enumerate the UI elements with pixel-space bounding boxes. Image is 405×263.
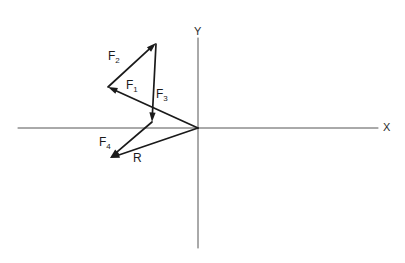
vector-label-subscript-F3: 3 (163, 94, 167, 103)
vector-diagram-svg (0, 0, 405, 263)
vector-label-subscript-F2: 2 (115, 56, 119, 65)
vector-label-F2: F2 (108, 50, 120, 62)
arrowhead-F3 (149, 112, 155, 122)
vector-diagram-canvas: X Y F1F2F3F4R (0, 0, 405, 263)
vector-line-F4 (115, 122, 152, 153)
vector-line-F3 (152, 44, 156, 115)
x-axis-label: X (383, 122, 390, 133)
y-axis-label: Y (194, 26, 201, 37)
arrowhead-F1 (108, 87, 118, 94)
vector-label-base-R: R (133, 151, 142, 165)
vector-label-F1: F1 (126, 79, 138, 91)
vector-label-subscript-F4: 4 (106, 142, 110, 151)
vectors-group (108, 43, 198, 158)
vector-label-F3: F3 (156, 88, 168, 100)
axes-group (18, 38, 378, 248)
vector-label-F4: F4 (99, 136, 111, 148)
vector-label-subscript-F1: 1 (133, 85, 137, 94)
vector-label-R: R (133, 152, 142, 164)
